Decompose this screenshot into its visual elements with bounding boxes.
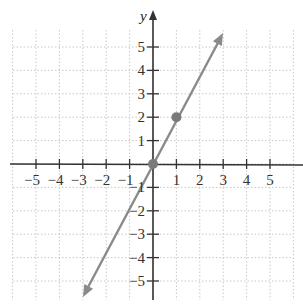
tick-labels: y−5−4−3−2−112345−5−4−3−2−112345 (24, 8, 274, 289)
y-tick-label: 5 (138, 39, 146, 55)
axes (10, 10, 303, 300)
x-tick-label: 2 (196, 172, 204, 188)
x-tick-label: 1 (173, 172, 181, 188)
y-tick-label: 4 (138, 62, 146, 78)
x-tick-label: 4 (243, 172, 251, 188)
y-axis-arrow-icon (149, 10, 157, 20)
x-tick-label: 3 (219, 172, 227, 188)
y-tick-label: 3 (138, 86, 146, 102)
y-tick-label: −3 (129, 226, 145, 242)
y-axis-label: y (138, 8, 147, 24)
x-tick-label: −4 (47, 172, 63, 188)
data-point (171, 112, 181, 122)
data-point (148, 159, 158, 169)
y-tick-label: −5 (129, 273, 145, 289)
y-tick-label: 1 (138, 133, 146, 149)
x-tick-label: −3 (71, 172, 87, 188)
x-tick-label: 5 (266, 172, 274, 188)
y-tick-label: −1 (129, 179, 145, 195)
x-tick-label: −5 (24, 172, 40, 188)
y-tick-label: −4 (129, 250, 145, 266)
y-tick-label: −2 (129, 203, 145, 219)
coordinate-plane: y−5−4−3−2−112345−5−4−3−2−112345 (0, 0, 303, 306)
x-tick-label: −2 (94, 172, 110, 188)
y-tick-label: 2 (138, 109, 146, 125)
